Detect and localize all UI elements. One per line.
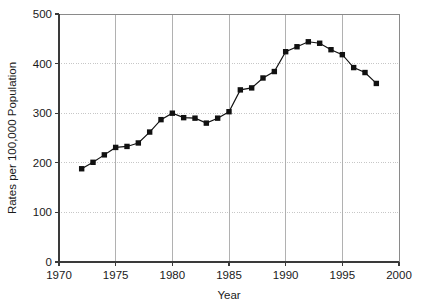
y-tick-label: 0	[46, 256, 52, 268]
data-point-marker	[238, 87, 243, 92]
data-point-marker	[113, 145, 118, 150]
x-tick-label: 1985	[216, 269, 242, 281]
x-tick-label: 1990	[273, 269, 299, 281]
data-point-marker	[362, 70, 367, 75]
x-tick-label: 1970	[46, 269, 72, 281]
data-point-marker	[158, 117, 163, 122]
data-point-marker	[170, 111, 175, 116]
chart-container: 0100200300400500 19701975198019851990199…	[0, 0, 427, 305]
data-point-marker	[272, 69, 277, 74]
data-point-marker	[260, 75, 265, 80]
data-point-marker	[351, 65, 356, 70]
x-tick-label: 1980	[160, 269, 186, 281]
data-point-marker	[79, 166, 84, 171]
x-tick-label: 2000	[386, 269, 412, 281]
x-axis-tick-labels: 1970197519801985199019952000	[46, 269, 412, 281]
data-point-marker	[215, 115, 220, 120]
data-point-marker	[306, 39, 311, 44]
data-point-marker	[294, 44, 299, 49]
y-tick-label: 300	[33, 107, 52, 119]
data-point-marker	[340, 52, 345, 57]
data-point-marker	[283, 49, 288, 54]
y-axis-title: Rates per 100,000 Population	[6, 62, 18, 214]
y-axis-tick-labels: 0100200300400500	[33, 8, 52, 268]
data-point-marker	[328, 47, 333, 52]
x-axis-title: Year	[217, 289, 240, 301]
data-point-marker	[192, 115, 197, 120]
data-point-marker	[249, 85, 254, 90]
x-tick-label: 1995	[330, 269, 356, 281]
data-point-marker	[226, 109, 231, 114]
x-axis-ticks	[59, 262, 399, 266]
data-point-marker	[317, 41, 322, 46]
y-tick-label: 500	[33, 8, 52, 20]
data-point-marker	[136, 140, 141, 145]
data-point-marker	[204, 120, 209, 125]
line-chart: 0100200300400500 19701975198019851990199…	[0, 0, 427, 305]
data-point-marker	[124, 144, 129, 149]
data-point-marker	[102, 152, 107, 157]
y-axis-ticks	[55, 14, 59, 262]
x-tick-label: 1975	[103, 269, 129, 281]
data-point-marker	[147, 129, 152, 134]
vertical-gridlines	[116, 14, 343, 262]
y-tick-label: 200	[33, 157, 52, 169]
y-tick-label: 100	[33, 206, 52, 218]
data-point-marker	[374, 81, 379, 86]
data-point-marker	[181, 115, 186, 120]
y-tick-label: 400	[33, 58, 52, 70]
data-point-marker	[90, 160, 95, 165]
